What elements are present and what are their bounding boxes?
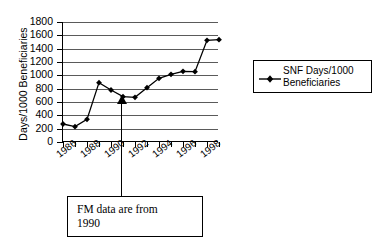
data-point-marker — [192, 69, 198, 75]
y-axis-tick-label: 800 — [0, 82, 53, 94]
data-point-marker — [84, 116, 90, 122]
annotation-arrow-line — [121, 103, 122, 196]
annotation-line-2: 1990 — [77, 216, 202, 230]
data-point-marker — [216, 37, 222, 43]
y-axis-tick-label: 1200 — [0, 55, 53, 67]
data-point-marker — [108, 87, 114, 93]
annotation-line-1: FM data are from — [77, 202, 202, 216]
data-point-marker — [204, 37, 210, 43]
data-point-marker — [60, 121, 66, 127]
legend-label-line1: SNF Days/1000 — [283, 65, 354, 77]
y-axis-tick-label: 1000 — [0, 68, 53, 80]
y-axis-tick-label: 1800 — [0, 15, 53, 27]
y-axis-tick-label: 1400 — [0, 42, 53, 54]
y-axis-tick-label: 1600 — [0, 28, 53, 40]
chart-figure: Days/1000 Beneficiaries 0200400600800100… — [0, 0, 383, 252]
legend-label: SNF Days/1000 Beneficiaries — [281, 65, 354, 89]
y-axis-tick-label: 600 — [0, 95, 53, 107]
y-axis-tick-label: 400 — [0, 108, 53, 120]
data-point-marker — [96, 80, 102, 86]
data-series-snf-days — [63, 22, 219, 142]
legend-label-line2: Beneficiaries — [283, 77, 354, 89]
x-axis-tick-label: 1986 — [54, 137, 78, 159]
data-point-marker — [72, 124, 78, 130]
data-point-marker — [168, 71, 174, 77]
legend-marker-icon — [259, 71, 281, 83]
data-point-marker — [180, 68, 186, 74]
chart-legend: SNF Days/1000 Beneficiaries — [253, 60, 372, 93]
annotation-textbox: FM data are from 1990 — [67, 196, 203, 237]
y-axis-tick-label: 200 — [0, 122, 53, 134]
plot-area — [62, 22, 218, 142]
series-line — [63, 40, 219, 127]
y-axis-tick-label: 0 — [0, 135, 53, 147]
